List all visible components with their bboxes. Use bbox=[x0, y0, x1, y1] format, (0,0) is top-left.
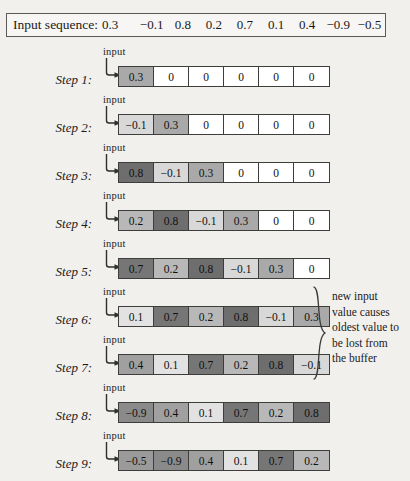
input-caption: input bbox=[103, 430, 126, 441]
buffer: −0.10.30000 bbox=[118, 114, 330, 135]
buffer-cell: 0.2 bbox=[154, 259, 189, 278]
step-label: Step 1: bbox=[0, 72, 92, 88]
buffer-cell: 0 bbox=[259, 163, 294, 182]
buffer-cell: −0.1 bbox=[154, 163, 189, 182]
input-sequence-value: 0.7 bbox=[229, 17, 260, 33]
buffer-cell: 0.1 bbox=[189, 403, 224, 422]
buffer: 0.40.10.70.20.8−0.1 bbox=[118, 354, 330, 375]
buffer-cell: −0.1 bbox=[224, 259, 259, 278]
step-label: Step 8: bbox=[0, 408, 92, 424]
input-caption: input bbox=[103, 94, 126, 105]
input-caption: input bbox=[103, 190, 126, 201]
annotation-line: the buffer bbox=[332, 351, 408, 367]
buffer-cell: 0 bbox=[294, 163, 329, 182]
input-sequence-value: −0.1 bbox=[136, 17, 167, 33]
step-row: Step 5:input0.70.20.8−0.10.30 bbox=[0, 238, 410, 282]
buffer: −0.5−0.90.40.10.70.2 bbox=[118, 450, 330, 471]
buffer-cell: 0.3 bbox=[154, 115, 189, 134]
buffer-cell: 0 bbox=[224, 163, 259, 182]
buffer-cell: 0.7 bbox=[224, 403, 259, 422]
buffer-cell: 0 bbox=[189, 67, 224, 86]
buffer-cell: 0.2 bbox=[294, 451, 329, 470]
buffer-cell: 0.1 bbox=[119, 307, 154, 326]
step-row: Step 2:input−0.10.30000 bbox=[0, 94, 410, 138]
step-label: Step 4: bbox=[0, 216, 92, 232]
buffer-cell: 0.7 bbox=[259, 451, 294, 470]
buffer-cell: 0 bbox=[294, 259, 329, 278]
buffer-cell: 0 bbox=[294, 67, 329, 86]
buffer-cell: 0 bbox=[224, 67, 259, 86]
buffer-cell: −0.5 bbox=[119, 451, 154, 470]
step-label: Step 5: bbox=[0, 264, 92, 280]
buffer-cell: 0 bbox=[224, 115, 259, 134]
step-row: Step 9:input−0.5−0.90.40.10.70.2 bbox=[0, 430, 410, 474]
buffer-cell: 0 bbox=[259, 211, 294, 230]
step-label: Step 9: bbox=[0, 456, 92, 472]
input-sequence-value: 0.2 bbox=[198, 17, 229, 33]
buffer-cell: 0.2 bbox=[119, 211, 154, 230]
buffer: 0.8−0.10.3000 bbox=[118, 162, 330, 183]
input-sequence-value: 0.1 bbox=[261, 17, 292, 33]
buffer: 0.20.8−0.10.300 bbox=[118, 210, 330, 231]
step-row: Step 4:input0.20.8−0.10.300 bbox=[0, 190, 410, 234]
input-caption: input bbox=[103, 142, 126, 153]
buffer-cell: 0.2 bbox=[259, 403, 294, 422]
buffer-cell: 0.8 bbox=[224, 307, 259, 326]
buffer-cell: 0.8 bbox=[119, 163, 154, 182]
buffer-cell: 0.3 bbox=[119, 67, 154, 86]
input-sequence-values: 0.3−0.10.80.20.70.10.4−0.9−0.5 bbox=[98, 17, 385, 33]
annotation-line: value causes bbox=[332, 305, 408, 321]
buffer-cell: 0.4 bbox=[119, 355, 154, 374]
buffer-cell: 0 bbox=[154, 67, 189, 86]
buffer-cell: 0.3 bbox=[224, 211, 259, 230]
step-label: Step 7: bbox=[0, 360, 92, 376]
input-caption: input bbox=[103, 46, 126, 57]
buffer-cell: 0.7 bbox=[154, 307, 189, 326]
buffer-cell: 0.4 bbox=[154, 403, 189, 422]
buffer-cell: 0.2 bbox=[224, 355, 259, 374]
buffer-cell: 0 bbox=[294, 115, 329, 134]
step-label: Step 6: bbox=[0, 312, 92, 328]
buffer-cell: 0.1 bbox=[224, 451, 259, 470]
annotation-line: oldest value to bbox=[332, 320, 408, 336]
input-caption: input bbox=[103, 382, 126, 393]
step-label: Step 2: bbox=[0, 120, 92, 136]
input-sequence-value: −0.5 bbox=[354, 17, 385, 33]
input-caption: input bbox=[103, 334, 126, 345]
annotation-text: new inputvalue causesoldest value tobe l… bbox=[332, 289, 408, 367]
buffer-cell: −0.1 bbox=[259, 307, 294, 326]
buffer-cell: −0.1 bbox=[119, 115, 154, 134]
buffer-cell: 0 bbox=[294, 211, 329, 230]
input-caption: input bbox=[103, 286, 126, 297]
buffer-cell: −0.1 bbox=[189, 211, 224, 230]
buffer-cell: 0 bbox=[189, 115, 224, 134]
input-sequence-value: 0.8 bbox=[167, 17, 198, 33]
input-sequence-box: Input sequence: 0.3−0.10.80.20.70.10.4−0… bbox=[6, 13, 386, 37]
step-label: Step 3: bbox=[0, 168, 92, 184]
buffer-cell: 0.1 bbox=[154, 355, 189, 374]
buffer-cell: 0.8 bbox=[154, 211, 189, 230]
input-sequence-value: −0.9 bbox=[323, 17, 354, 33]
annotation-brace-icon bbox=[312, 286, 328, 380]
step-row: Step 3:input0.8−0.10.3000 bbox=[0, 142, 410, 186]
input-sequence-value: 0.4 bbox=[292, 17, 323, 33]
buffer-cell: −0.9 bbox=[154, 451, 189, 470]
buffer: 0.10.70.20.8−0.10.3 bbox=[118, 306, 330, 327]
buffer-cell: 0.2 bbox=[189, 307, 224, 326]
buffer-cell: 0.8 bbox=[189, 259, 224, 278]
buffer: 0.300000 bbox=[118, 66, 330, 87]
buffer-cell: 0.8 bbox=[294, 403, 329, 422]
buffer-cell: 0 bbox=[259, 67, 294, 86]
buffer: 0.70.20.8−0.10.30 bbox=[118, 258, 330, 279]
input-sequence-label: Input sequence: bbox=[13, 17, 98, 33]
input-sequence-value: 0.3 bbox=[98, 17, 136, 33]
buffer-cell: 0.7 bbox=[189, 355, 224, 374]
buffer-cell: 0.8 bbox=[259, 355, 294, 374]
buffer-cell: 0.3 bbox=[189, 163, 224, 182]
buffer-cell: 0.7 bbox=[119, 259, 154, 278]
step-row: Step 1:input0.300000 bbox=[0, 46, 410, 90]
buffer-cell: 0.3 bbox=[259, 259, 294, 278]
annotation-line: new input bbox=[332, 289, 408, 305]
buffer-cell: 0.4 bbox=[189, 451, 224, 470]
buffer-cell: −0.9 bbox=[119, 403, 154, 422]
